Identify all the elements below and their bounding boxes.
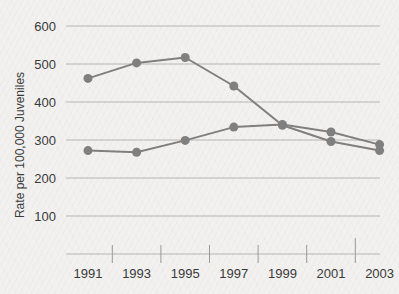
y-tick-label: 300 bbox=[34, 133, 56, 148]
x-tick-label-1991: 1991 bbox=[74, 266, 103, 281]
data-point bbox=[181, 136, 190, 145]
series-line bbox=[88, 58, 380, 151]
gridlines bbox=[66, 26, 380, 216]
data-point bbox=[229, 123, 238, 132]
data-point bbox=[132, 148, 141, 157]
x-tick-label-1999: 1999 bbox=[268, 266, 297, 281]
y-axis-tick-labels: 100200300400500600 bbox=[34, 19, 56, 224]
data-point bbox=[181, 53, 190, 62]
data-point bbox=[84, 146, 93, 155]
y-tick-label: 500 bbox=[34, 57, 56, 72]
x-tick-label-1997: 1997 bbox=[219, 266, 248, 281]
data-point bbox=[132, 58, 141, 67]
data-point bbox=[327, 128, 336, 137]
data-point bbox=[327, 137, 336, 146]
x-tick-label-1995: 1995 bbox=[171, 266, 200, 281]
chart-canvas: 100200300400500600Rate per 100,000 Juven… bbox=[0, 0, 399, 294]
x-tick-label-1993: 1993 bbox=[122, 266, 151, 281]
x-tick-label-2001: 2001 bbox=[317, 266, 346, 281]
y-axis-title: Rate per 100,000 Juveniles bbox=[13, 72, 27, 218]
y-tick-label: 200 bbox=[34, 171, 56, 186]
y-tick-label: 100 bbox=[34, 209, 56, 224]
x-axis-tick-labels: 1991199319951997199920012003 bbox=[74, 266, 395, 281]
series-2 bbox=[84, 120, 385, 157]
data-point bbox=[375, 140, 384, 149]
x-tick-label-2003: 2003 bbox=[365, 266, 394, 281]
data-point bbox=[84, 74, 93, 83]
line-chart-figure: 100200300400500600Rate per 100,000 Juven… bbox=[0, 0, 399, 294]
x-axis-ticks bbox=[112, 238, 355, 263]
data-point bbox=[229, 82, 238, 91]
y-tick-label: 600 bbox=[34, 19, 56, 34]
y-tick-label: 400 bbox=[34, 95, 56, 110]
data-point bbox=[278, 120, 287, 129]
